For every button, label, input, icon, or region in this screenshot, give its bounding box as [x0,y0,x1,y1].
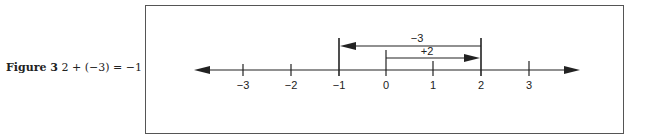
axis-left-arrowhead-icon [194,66,210,74]
tick-label: 3 [526,79,532,91]
tick-label: −1 [333,79,346,91]
minus-3-label: −3 [411,32,424,44]
tick-label: 0 [383,79,389,91]
minus-3-arrowhead-icon [340,42,356,50]
tick-label: 1 [430,79,436,91]
plus-2-label: +2 [421,45,434,57]
plus-2-arrowhead-icon [464,54,480,62]
tick-label: −3 [237,79,250,91]
tick-labels: −3 −2 −1 0 1 2 3 [237,79,532,91]
tick-label: 2 [478,79,484,91]
number-line-diagram: −3 −2 −1 0 1 2 3 −3 +2 [0,0,654,140]
axis-right-arrowhead-icon [564,66,580,74]
tick-label: −2 [285,79,298,91]
